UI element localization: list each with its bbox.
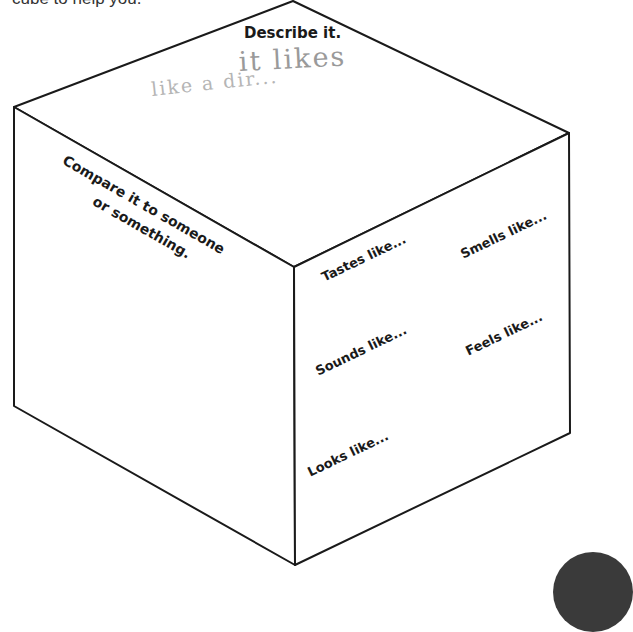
page-corner-tab [553, 552, 633, 632]
describe-it-prompt: Describe it. [244, 24, 341, 42]
